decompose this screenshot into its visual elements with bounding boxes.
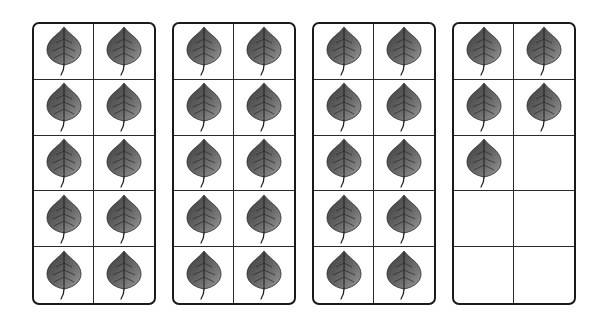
frame-cell-filled: [374, 136, 434, 192]
frame-cell-filled: [174, 247, 234, 303]
frame-cell-empty: [514, 136, 574, 192]
leaf-icon: [464, 81, 504, 133]
leaf-icon: [184, 193, 224, 245]
frame-cell-filled: [94, 24, 154, 80]
leaf-icon: [244, 81, 284, 133]
leaf-icon: [184, 137, 224, 189]
leaf-icon: [524, 81, 564, 133]
frame-cell-empty: [454, 247, 514, 303]
leaf-icon: [464, 25, 504, 77]
leaf-icon: [384, 25, 424, 77]
frame-cell-filled: [314, 80, 374, 136]
leaf-icon: [184, 81, 224, 133]
frame-cell-filled: [314, 136, 374, 192]
leaf-icon: [384, 249, 424, 301]
frame-cell-filled: [374, 191, 434, 247]
frame-cell-filled: [94, 80, 154, 136]
leaf-icon: [104, 249, 144, 301]
leaf-icon: [184, 249, 224, 301]
frame-cell-filled: [234, 247, 294, 303]
frame-cell-filled: [174, 24, 234, 80]
frame-cell-filled: [234, 191, 294, 247]
ten-frame-3: [312, 22, 436, 305]
frame-cell-filled: [94, 247, 154, 303]
leaf-icon: [324, 25, 364, 77]
frame-cell-filled: [34, 191, 94, 247]
ten-frame-4: [452, 22, 576, 305]
leaf-icon: [44, 193, 84, 245]
frame-cell-filled: [514, 24, 574, 80]
frame-cell-filled: [374, 247, 434, 303]
leaf-icon: [384, 193, 424, 245]
frame-cell-filled: [314, 191, 374, 247]
frame-cell-filled: [174, 136, 234, 192]
leaf-icon: [184, 25, 224, 77]
leaf-icon: [44, 249, 84, 301]
frame-cell-filled: [94, 191, 154, 247]
ten-frame-1: [32, 22, 156, 305]
leaf-icon: [244, 249, 284, 301]
leaf-icon: [324, 249, 364, 301]
ten-frame-2: [172, 22, 296, 305]
frame-cell-empty: [454, 191, 514, 247]
leaf-icon: [44, 81, 84, 133]
frame-cell-filled: [234, 136, 294, 192]
frame-cell-filled: [514, 80, 574, 136]
frame-cell-empty: [514, 191, 574, 247]
leaf-icon: [104, 193, 144, 245]
frame-cell-filled: [34, 247, 94, 303]
leaf-icon: [104, 25, 144, 77]
frame-cell-filled: [34, 80, 94, 136]
leaf-icon: [44, 137, 84, 189]
frame-cell-filled: [34, 136, 94, 192]
frame-cell-filled: [174, 80, 234, 136]
frame-cell-filled: [314, 24, 374, 80]
frame-cell-filled: [174, 191, 234, 247]
leaf-icon: [104, 137, 144, 189]
frame-cell-filled: [314, 247, 374, 303]
leaf-icon: [244, 137, 284, 189]
frame-cell-filled: [454, 24, 514, 80]
leaf-icon: [384, 137, 424, 189]
leaf-icon: [244, 25, 284, 77]
frame-cell-filled: [374, 80, 434, 136]
frame-cell-filled: [454, 80, 514, 136]
frame-cell-filled: [234, 80, 294, 136]
leaf-icon: [524, 25, 564, 77]
frame-cell-filled: [454, 136, 514, 192]
frame-cell-filled: [374, 24, 434, 80]
leaf-icon: [324, 137, 364, 189]
frame-cell-empty: [514, 247, 574, 303]
leaf-icon: [244, 193, 284, 245]
leaf-icon: [324, 81, 364, 133]
leaf-icon: [44, 25, 84, 77]
frame-cell-filled: [94, 136, 154, 192]
leaf-icon: [324, 193, 364, 245]
leaf-icon: [104, 81, 144, 133]
leaf-icon: [384, 81, 424, 133]
leaf-icon: [464, 137, 504, 189]
frame-cell-filled: [234, 24, 294, 80]
frame-cell-filled: [34, 24, 94, 80]
